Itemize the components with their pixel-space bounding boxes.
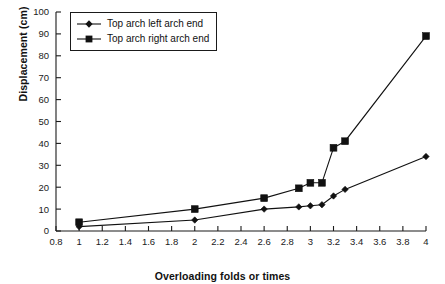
series-group bbox=[76, 33, 430, 230]
x-tick-label: 3 bbox=[308, 236, 313, 247]
legend-item-left-arch: Top arch left arch end bbox=[76, 16, 209, 31]
x-tick-label: 1.4 bbox=[119, 236, 132, 247]
y-tick-label: 0 bbox=[44, 225, 49, 236]
data-point-right-arch bbox=[307, 179, 314, 186]
legend-label-right-arch: Top arch right arch end bbox=[107, 33, 209, 45]
y-axis-title: Displacement (cm) bbox=[17, 0, 29, 129]
x-tick-label: 1.2 bbox=[96, 236, 109, 247]
y-tick-label: 90 bbox=[38, 28, 49, 39]
data-point-right-arch bbox=[295, 185, 302, 192]
data-point-left-arch bbox=[423, 153, 429, 159]
y-tick-label: 70 bbox=[38, 72, 49, 83]
y-tick-label: 20 bbox=[38, 182, 49, 193]
data-point-left-arch bbox=[307, 203, 313, 209]
data-point-left-arch bbox=[296, 204, 302, 210]
chart-figure: 01020304050607080901000.811.21.41.61.822… bbox=[0, 0, 445, 284]
x-tick-label: 0.8 bbox=[49, 236, 62, 247]
chart-plot-area: 01020304050607080901000.811.21.41.61.822… bbox=[0, 0, 445, 284]
y-tick-label: 10 bbox=[38, 204, 49, 215]
data-point-right-arch bbox=[76, 219, 83, 226]
x-tick-label: 3.2 bbox=[327, 236, 340, 247]
x-tick-label: 2 bbox=[192, 236, 197, 247]
data-point-right-arch bbox=[319, 179, 326, 186]
y-tick-label: 40 bbox=[38, 138, 49, 149]
x-tick-label: 3.8 bbox=[396, 236, 409, 247]
data-point-right-arch bbox=[191, 206, 198, 213]
x-tick-label: 1.8 bbox=[165, 236, 178, 247]
legend-key-diamond-icon bbox=[76, 18, 102, 30]
legend-key-square-icon bbox=[76, 33, 102, 45]
data-point-left-arch bbox=[192, 217, 198, 223]
data-point-left-arch bbox=[342, 186, 348, 192]
x-tick-label: 3.6 bbox=[373, 236, 386, 247]
x-tick-label: 3.4 bbox=[350, 236, 363, 247]
x-axis-title: Overloading folds or times bbox=[0, 270, 445, 282]
x-tick-label: 2.6 bbox=[258, 236, 271, 247]
x-tick-label: 2.8 bbox=[281, 236, 294, 247]
x-tick-label: 1 bbox=[76, 236, 81, 247]
x-tick-label: 2.2 bbox=[211, 236, 224, 247]
data-point-right-arch bbox=[423, 33, 430, 40]
y-tick-label: 80 bbox=[38, 50, 49, 61]
series-line-right-arch bbox=[79, 36, 426, 222]
legend-label-left-arch: Top arch left arch end bbox=[107, 18, 203, 30]
legend-item-right-arch: Top arch right arch end bbox=[76, 31, 209, 46]
data-point-right-arch bbox=[342, 138, 349, 145]
y-tick-label: 60 bbox=[38, 94, 49, 105]
x-tick-label: 2.4 bbox=[234, 236, 247, 247]
y-tick-label: 100 bbox=[33, 6, 49, 17]
data-point-left-arch bbox=[261, 206, 267, 212]
y-tick-label: 50 bbox=[38, 116, 49, 127]
data-point-right-arch bbox=[261, 195, 268, 202]
x-tick-label: 4 bbox=[423, 236, 428, 247]
y-tick-label: 30 bbox=[38, 160, 49, 171]
x-tick-label: 1.6 bbox=[142, 236, 155, 247]
data-point-right-arch bbox=[330, 144, 337, 151]
chart-legend: Top arch left arch end Top arch right ar… bbox=[70, 12, 217, 51]
